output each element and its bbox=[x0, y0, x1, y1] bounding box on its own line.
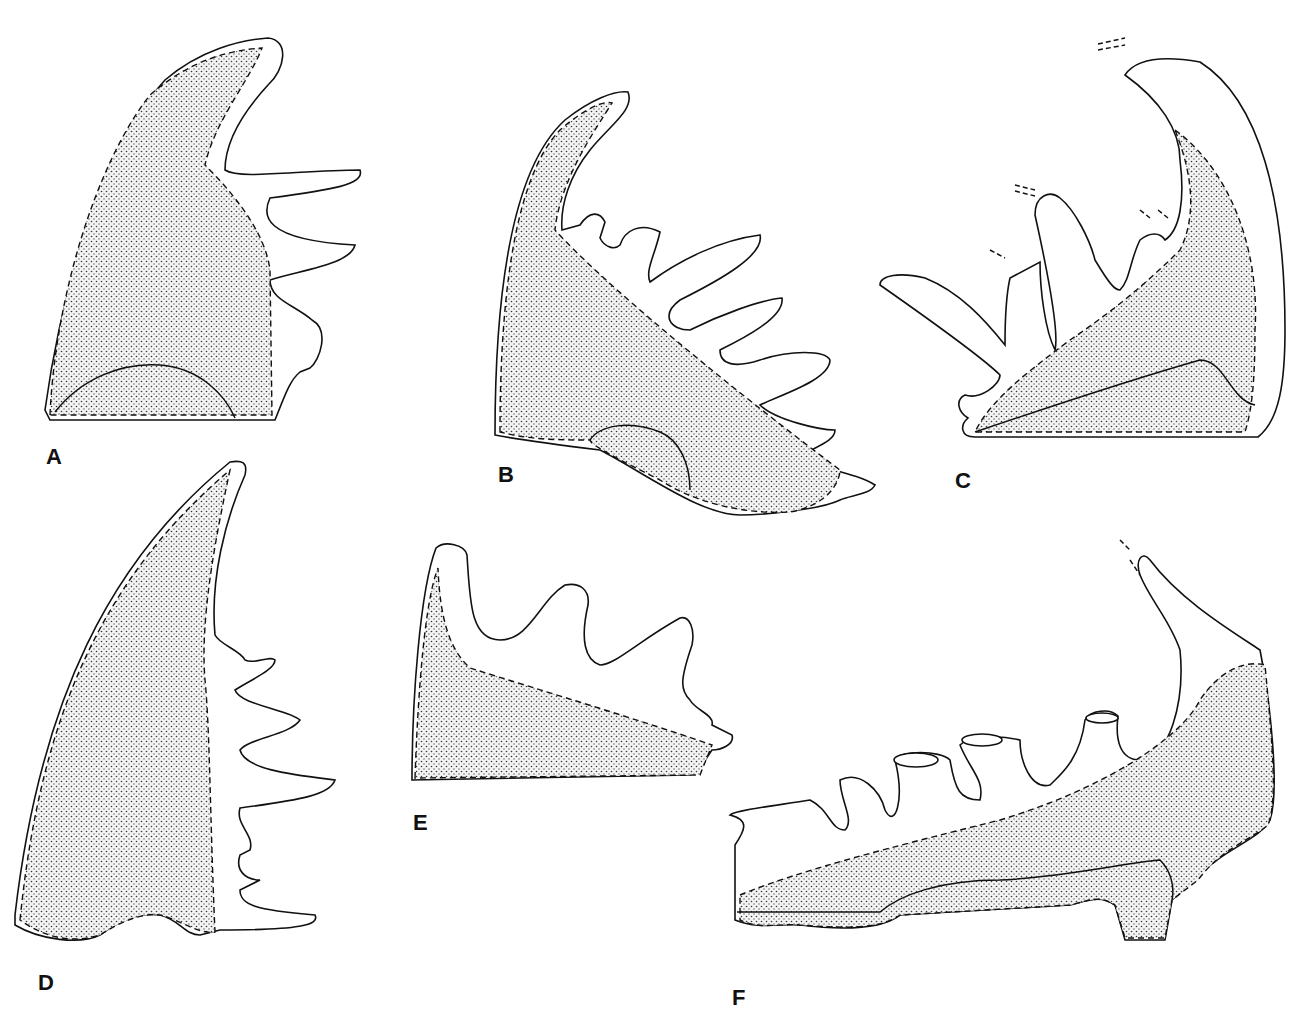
panel-label-E: E bbox=[413, 810, 428, 836]
panel-label-C: C bbox=[955, 468, 971, 494]
figure-canvas bbox=[0, 0, 1302, 1035]
panel-label-F: F bbox=[732, 985, 745, 1011]
panel-label-D: D bbox=[38, 970, 54, 996]
element-E bbox=[412, 544, 732, 780]
element-B bbox=[495, 92, 875, 515]
element-C bbox=[880, 38, 1285, 437]
element-F bbox=[730, 540, 1274, 940]
panel-label-A: A bbox=[46, 444, 62, 470]
element-A bbox=[45, 38, 360, 420]
element-D bbox=[15, 461, 335, 940]
panel-label-B: B bbox=[498, 462, 514, 488]
